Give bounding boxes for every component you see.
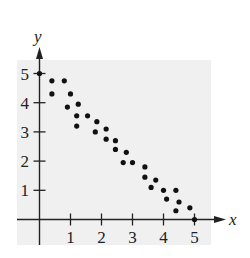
data-point (124, 150, 129, 155)
data-point (93, 129, 98, 134)
data-point (176, 199, 181, 204)
y-tick-label: 5 (21, 65, 30, 84)
data-point (49, 91, 54, 96)
y-axis-label: y (32, 27, 42, 46)
data-point (149, 185, 154, 190)
data-point (192, 217, 197, 222)
y-tick-label: 4 (21, 94, 30, 113)
x-axis-label: x (228, 210, 237, 229)
data-point (94, 119, 99, 124)
data-point (74, 113, 79, 118)
data-point (161, 188, 166, 193)
data-point (37, 71, 42, 76)
x-tick-label: 2 (97, 228, 106, 247)
data-point (104, 137, 109, 142)
data-point (76, 102, 81, 107)
data-point (104, 126, 109, 131)
data-point (113, 147, 118, 152)
data-point (68, 91, 73, 96)
data-point (65, 104, 70, 109)
data-point (49, 78, 54, 83)
data-point (62, 78, 67, 83)
x-tick-label: 4 (159, 228, 168, 247)
data-point (142, 175, 147, 180)
data-point (74, 123, 79, 128)
data-point (153, 177, 158, 182)
data-point (121, 160, 126, 165)
scatter-plot: 1234512345 x y (0, 0, 250, 258)
x-tick-label: 3 (128, 228, 137, 247)
data-point (85, 113, 90, 118)
data-point (187, 205, 192, 210)
y-tick-label: 2 (21, 152, 30, 171)
data-point (173, 208, 178, 213)
y-tick-label: 3 (21, 123, 30, 142)
data-point (142, 164, 147, 169)
data-point (173, 188, 178, 193)
y-tick-label: 1 (21, 181, 30, 200)
data-point (130, 160, 135, 165)
x-tick-label: 5 (190, 228, 199, 247)
y-axis-arrow-icon (36, 47, 43, 59)
data-point (164, 196, 169, 201)
plot-panel (17, 60, 211, 245)
x-axis-arrow-icon (214, 216, 226, 223)
data-point (113, 138, 118, 143)
x-tick-label: 1 (66, 228, 75, 247)
